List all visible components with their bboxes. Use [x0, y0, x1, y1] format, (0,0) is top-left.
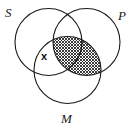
set-label-p: P: [118, 9, 126, 22]
venn-diagram: S P M x: [0, 0, 135, 131]
set-label-m: M: [61, 112, 72, 125]
x-mark: x: [41, 51, 47, 62]
set-label-s: S: [5, 6, 12, 19]
